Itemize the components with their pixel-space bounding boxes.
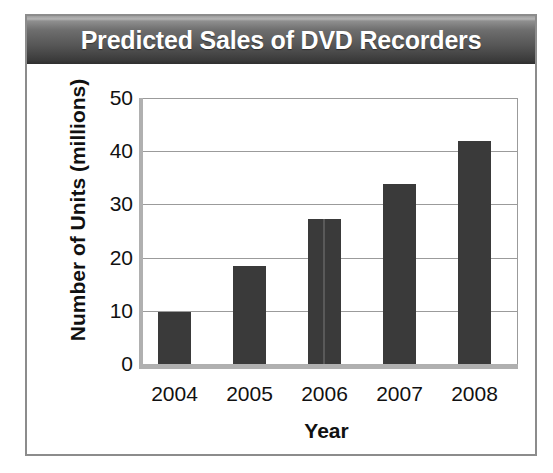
- chart-title-bar: Predicted Sales of DVD Recorders: [27, 16, 535, 64]
- y-axis-tick-label: 40: [110, 139, 133, 163]
- x-axis-title: Year: [139, 419, 514, 443]
- y-axis-tick-label: 0: [121, 352, 133, 376]
- x-axis-tick-label: 2004: [151, 382, 198, 406]
- bar-seam-artifact: [323, 219, 325, 364]
- plot-area: 01020304050 20042005200620072008: [139, 98, 518, 369]
- x-axis-tick-label: 2006: [301, 382, 348, 406]
- bar: [458, 141, 491, 364]
- x-axis-tick-label: 2007: [376, 382, 423, 406]
- chart-figure: Predicted Sales of DVD Recorders Number …: [25, 14, 537, 456]
- x-axis-tick-label: 2005: [226, 382, 273, 406]
- bar: [308, 219, 341, 364]
- y-axis-tick-label: 20: [110, 246, 133, 270]
- bar: [383, 184, 416, 364]
- x-axis-tick-label: 2008: [451, 382, 498, 406]
- y-axis-tick-label: 10: [110, 299, 133, 323]
- chart-plot-region: Number of Units (millions) 01020304050 2…: [27, 64, 535, 454]
- bar: [233, 266, 266, 364]
- bar: [158, 312, 191, 364]
- y-axis-tick-label: 30: [110, 192, 133, 216]
- y-axis-title: Number of Units (millions): [66, 65, 90, 355]
- page-title: Predicted Sales of DVD Recorders: [81, 26, 482, 55]
- y-axis-tick-label: 50: [110, 86, 133, 110]
